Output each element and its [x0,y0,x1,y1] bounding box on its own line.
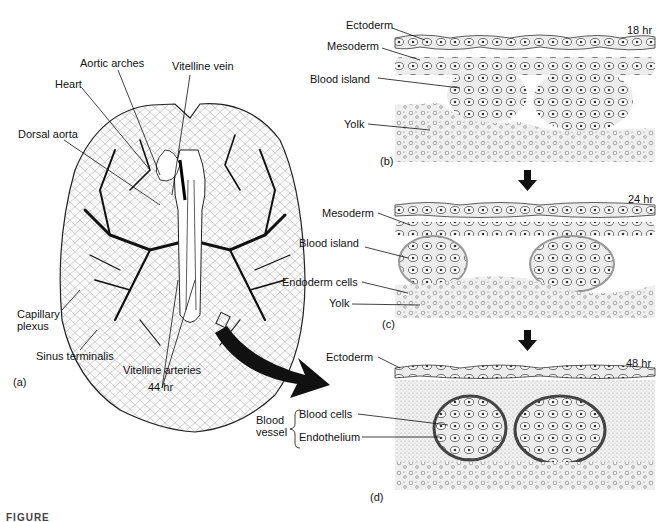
label-capillary-plexus-2: plexus [17,320,49,332]
label-endothelium: Endothelium [299,431,360,443]
down-arrow-icon [518,330,537,351]
label-yolk-b: Yolk [344,118,364,130]
section-b [395,35,655,162]
label-ectoderm-b: Ectoderm [346,19,393,31]
stage-b: 18 hr [627,24,652,36]
label-mesoderm-b: Mesoderm [327,40,379,52]
label-blood-island-b: Blood island [310,73,370,85]
stage-d: 48 hr [626,357,651,369]
figure-caption: FIGURE [6,512,50,522]
label-vitelline-vein: Vitelline vein [172,60,234,72]
section-c [395,203,655,319]
section-d [395,365,655,490]
panel-tag-b: (b) [380,155,393,167]
panel-tag-a: (a) [13,376,26,388]
panel-tag-d: (d) [370,491,383,503]
label-capillary-plexus-1: Capillary [17,308,60,320]
stage-a: 44 hr [148,381,173,393]
label-endoderm-cells: Endoderm cells [282,276,358,288]
label-dorsal-aorta: Dorsal aorta [18,128,78,140]
down-arrow-icon [518,170,537,191]
label-yolk-c: Yolk [329,297,349,309]
label-heart: Heart [55,78,82,90]
label-blood-island-c: Blood island [299,237,359,249]
label-blood-vessel-2: vessel [256,426,287,438]
label-mesoderm-c: Mesoderm [322,207,374,219]
panel-tag-c: (c) [382,318,395,330]
stage-c: 24 hr [628,193,653,205]
label-ectoderm-d: Ectoderm [326,351,373,363]
label-blood-cells: Blood cells [299,408,352,420]
label-aortic-arches: Aortic arches [80,57,144,69]
label-blood-vessel-1: Blood [256,414,284,426]
embryo-disc [60,104,305,432]
label-sinus-terminalis: Sinus terminalis [36,350,114,362]
label-vitelline-arteries: Vitelline arteries [123,364,201,376]
